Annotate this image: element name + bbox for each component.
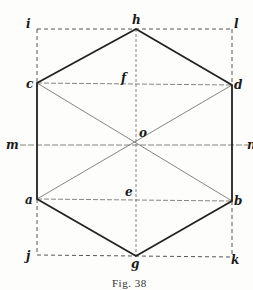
- label-e: e: [125, 185, 133, 199]
- figure-caption: Fig. 38: [112, 277, 147, 289]
- label-h: h: [132, 13, 141, 27]
- label-c: c: [26, 77, 34, 91]
- label-a: a: [25, 193, 33, 207]
- label-k: k: [231, 253, 239, 267]
- hexagon: [37, 29, 232, 256]
- bounding-rectangle: [37, 29, 232, 257]
- label-o: o: [139, 126, 147, 140]
- label-g: g: [131, 257, 139, 271]
- label-n: n: [247, 138, 253, 152]
- construction-lines: [20, 29, 248, 256]
- label-i: i: [26, 17, 31, 31]
- label-m: m: [6, 138, 19, 152]
- label-d: d: [234, 78, 243, 92]
- label-j: j: [24, 249, 31, 263]
- label-f: f: [120, 71, 128, 85]
- label-l: l: [234, 17, 239, 31]
- hexagon-diagram: i h l c f d m o n a e b j g k Fig. 38: [0, 0, 253, 290]
- label-b: b: [234, 194, 242, 208]
